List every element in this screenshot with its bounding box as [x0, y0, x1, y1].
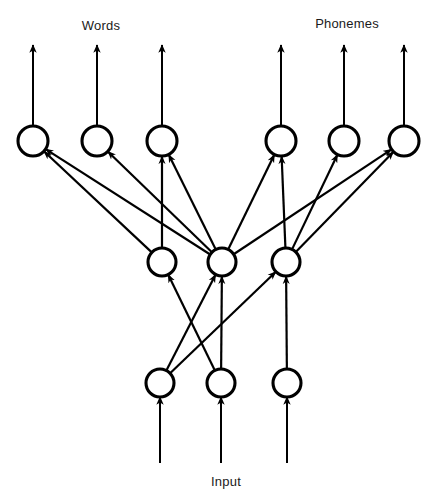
hidden-node: [148, 248, 176, 276]
hidden-to-output-edge: [44, 151, 152, 252]
input-stimulus-arrows: [160, 397, 287, 463]
hidden-to-output-edges: [44, 149, 394, 254]
output-node: [82, 126, 112, 156]
output-response-arrows: [33, 45, 404, 126]
input-to-hidden-edge: [170, 272, 276, 374]
hidden-layer-nodes: [148, 248, 300, 276]
output-node: [147, 126, 177, 156]
hidden-to-output-edge: [292, 155, 337, 250]
words-label: Words: [82, 19, 120, 32]
output-layer-nodes: [18, 126, 419, 156]
output-node: [329, 126, 359, 156]
output-node: [266, 126, 296, 156]
input-node: [273, 369, 301, 397]
phonemes-label: Phonemes: [315, 17, 379, 30]
input-node: [207, 369, 235, 397]
hidden-to-output-edge: [228, 154, 274, 249]
input-label: Input: [211, 475, 241, 488]
input-node: [146, 369, 174, 397]
hidden-to-output-edge: [234, 149, 392, 254]
hidden-to-output-edge: [108, 151, 212, 252]
hidden-to-output-edge: [169, 154, 216, 249]
hidden-node: [208, 248, 236, 276]
hidden-to-output-edge: [46, 149, 211, 254]
output-node: [18, 126, 48, 156]
output-node: [389, 126, 419, 156]
neural-network-diagram: Words Phonemes Input: [0, 0, 435, 499]
input-layer-nodes: [146, 369, 301, 397]
input-to-hidden-edge: [286, 276, 287, 369]
hidden-node: [272, 248, 300, 276]
network-graphic: [0, 0, 435, 499]
input-to-hidden-edges: [166, 272, 287, 374]
hidden-to-output-edge: [282, 156, 286, 248]
hidden-to-output-edge: [296, 152, 394, 252]
